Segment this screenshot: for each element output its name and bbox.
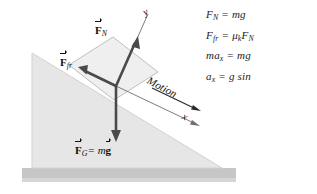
eq1-rhs: = mg	[218, 8, 245, 20]
gravity-equals-mass: = m	[87, 144, 105, 156]
gravity-acceleration-symbol: g	[106, 144, 112, 156]
eq2-F2: F	[242, 29, 249, 41]
friction-force-symbol: F	[60, 56, 67, 68]
ground-strip-shadow	[22, 178, 236, 182]
eq4-rhs: = g sin	[215, 70, 251, 82]
gravity-force-label: FG= mg	[75, 144, 111, 158]
eq2-sub-n: N	[249, 33, 254, 42]
equation-newton-second-law: max = mg	[206, 49, 251, 65]
physics-figure-page: FN Ffr FG= mg y x Motion FN = mg Ffr = μ…	[0, 0, 317, 194]
equation-friction-force: Ffr = μkFN	[206, 29, 254, 45]
eq3-rhs: = mg	[224, 49, 251, 61]
equation-acceleration: ax = g sin	[206, 70, 251, 86]
friction-force-subscript: fr	[67, 61, 72, 70]
eq2-F: F	[206, 29, 213, 41]
eq1-F: F	[206, 8, 213, 20]
friction-force-label: Ffr	[60, 56, 72, 70]
equation-list: FN = mg Ffr = μkFN max = mg ax = g sin	[206, 8, 312, 86]
normal-force-label: FN	[95, 24, 107, 38]
motion-arrowhead	[191, 105, 201, 111]
x-axis-arrowhead	[190, 120, 200, 126]
eq2-mid: = μ	[219, 29, 238, 41]
normal-force-subscript: N	[102, 29, 107, 38]
eq3-ma: ma	[206, 49, 220, 61]
equation-normal-force: FN = mg	[206, 8, 246, 24]
normal-force-symbol: F	[95, 24, 102, 36]
gravity-force-symbol: F	[75, 144, 82, 156]
